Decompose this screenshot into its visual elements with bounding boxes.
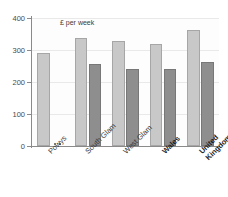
units-annotation: £ per week [60, 19, 94, 26]
y-tick-mark [27, 146, 32, 147]
y-tick-label: 400 [3, 14, 25, 23]
bar-group [32, 18, 69, 146]
bar [187, 30, 200, 146]
bar-group [182, 18, 219, 146]
bar [75, 38, 88, 146]
bar [37, 53, 50, 146]
bar-group [69, 18, 106, 146]
y-tick-label: 100 [3, 110, 25, 119]
bars-layer [32, 18, 219, 146]
y-tick-label: 300 [3, 46, 25, 55]
y-tick-label: 200 [3, 78, 25, 87]
x-axis-labels: PowysSouth GlamWest GlamWalesUnited King… [0, 148, 228, 197]
bar-chart: 0100200300400 £ per week PowysSouth Glam… [0, 0, 228, 197]
